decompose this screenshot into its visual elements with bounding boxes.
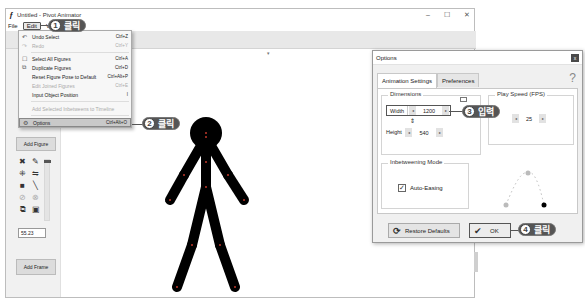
menu-item-input-position[interactable]: Input Object Position I [19, 90, 131, 99]
auto-easing-checkbox[interactable]: ✓ [398, 184, 406, 192]
line-icon[interactable]: ╲ [31, 181, 40, 190]
menu-separator [31, 101, 129, 102]
height-decrement[interactable]: ◂ [405, 128, 412, 137]
easing-preview-graphic [498, 169, 568, 213]
stick-figure[interactable] [150, 115, 270, 304]
callout-4: 4 클릭 [518, 223, 556, 236]
scale-input[interactable]: 55.23 [18, 228, 46, 238]
menu-item-redo[interactable]: ↷ Redo Ctrl+Y [19, 41, 131, 50]
close-button[interactable]: ✕ [464, 11, 470, 19]
color-icon[interactable]: ■ [18, 181, 27, 190]
callout-1: 1 클릭 [48, 19, 86, 32]
center-icon[interactable]: ⁜ [18, 169, 27, 178]
callout-2: 2 클릭 [142, 117, 180, 130]
callout-leader [449, 111, 463, 112]
paste-icon[interactable]: ▣ [31, 205, 40, 214]
ok-button[interactable]: ✔ OK [469, 223, 511, 238]
minimize-button[interactable]: – [426, 11, 430, 19]
menu-item-select-all[interactable]: ☐ Select All Figures Ctrl+A [19, 54, 131, 63]
tool-grid: ✖ ✎ ⁜ ⇋ ■ ╲ ⊘ ⊗ ⧉ ▣ [18, 157, 41, 214]
height-value[interactable]: 540 [413, 130, 435, 136]
join-icon[interactable]: ⊘ [18, 193, 27, 202]
select-all-icon: ☐ [19, 55, 29, 62]
add-figure-button[interactable]: Add Figure [16, 137, 56, 151]
width-spinbox[interactable]: Width ◂ 1200 ▸ [386, 105, 451, 116]
refresh-icon: ⟳ [393, 226, 401, 236]
redo-icon: ↷ [19, 42, 29, 49]
checkmark-icon: ✔ [474, 226, 482, 236]
menu-item-reset-pose[interactable]: Reset Figure Pose to Default Ctrl+Alt+P [19, 72, 131, 81]
flip-icon[interactable]: ⇋ [31, 169, 40, 178]
canvas-center-marker: ▾ [267, 50, 270, 56]
auto-easing-label: Auto-Easing [410, 185, 443, 191]
restore-defaults-button[interactable]: ⟳ Restore Defaults [388, 223, 460, 238]
scrollbar[interactable] [474, 252, 478, 272]
dialog-close-button[interactable]: x [571, 54, 579, 62]
play-speed-group: Play Speed (FPS) ◂ 25 ▸ [488, 95, 574, 145]
add-frame-button[interactable]: Add Frame [16, 259, 56, 275]
fps-increment[interactable]: ▸ [539, 114, 546, 123]
maximize-button[interactable]: ☐ [444, 11, 450, 19]
menu-item-options[interactable]: ⚙ Options Ctrl+Alt+O [19, 118, 131, 127]
tab-animation-settings[interactable]: Animation Settings [377, 73, 437, 88]
menu-separator [31, 115, 129, 116]
copy-icon[interactable]: ⧉ [18, 205, 27, 214]
inbetweening-group: Inbetweening Mode ✓ Auto-Easing [381, 163, 469, 209]
pencil-icon[interactable]: ✎ [31, 157, 40, 166]
dialog-title: Options [376, 55, 397, 61]
menu-item-add-inbetweens[interactable]: Add Selected Inbetweens to Timeline [19, 104, 131, 113]
options-dialog: Options x Animation Settings Preferences… [372, 50, 583, 243]
slider-thumb[interactable] [44, 160, 51, 163]
lock-ratio-icon[interactable] [460, 97, 467, 102]
aspect-link-icon[interactable]: ⇕ [410, 117, 415, 124]
height-spinbox[interactable]: ◂ 540 ▸ [404, 127, 444, 138]
width-increment[interactable]: ▸ [442, 106, 449, 115]
dialog-title-bar: Options [373, 51, 582, 65]
width-decrement[interactable]: ◂ [409, 106, 416, 115]
dialog-tabs: Animation Settings Preferences [377, 73, 479, 88]
app-icon: ƒ [9, 11, 14, 19]
menu-edit[interactable]: Edit [23, 22, 41, 30]
dimensions-group: Dimensions Width ◂ 1200 ▸ ⇕ Height ◂ 540… [381, 95, 481, 155]
duplicate-icon: ⧉ [19, 64, 29, 71]
tab-preferences[interactable]: Preferences [437, 73, 479, 87]
scale-slider[interactable] [44, 159, 50, 221]
delete-icon[interactable]: ✖ [18, 157, 27, 166]
menu-item-edit-joined[interactable]: Edit Joined Figures Ctrl+E [19, 81, 131, 90]
fps-value[interactable]: 25 [520, 116, 538, 122]
menu-separator [31, 52, 129, 53]
menu-item-duplicate[interactable]: ⧉ Duplicate Figures Ctrl+D [19, 63, 131, 72]
undo-icon: ↶ [19, 33, 29, 40]
split-icon[interactable]: ⊗ [31, 193, 40, 202]
menu-file[interactable]: File [8, 23, 18, 29]
window-title: Untitled - Pivot Animator [17, 12, 81, 18]
fps-decrement[interactable]: ◂ [512, 114, 519, 123]
height-label: Height [386, 129, 402, 135]
options-icon: ⚙ [20, 119, 30, 126]
help-icon[interactable]: ? [569, 71, 576, 85]
menu-item-undo-select[interactable]: ↶ Undo Select Ctrl+Z [19, 32, 131, 41]
height-increment[interactable]: ▸ [436, 128, 443, 137]
edit-menu-dropdown: ↶ Undo Select Ctrl+Z ↷ Redo Ctrl+Y ☐ Sel… [18, 30, 132, 128]
callout-3: 3 입력 [462, 105, 500, 118]
width-value[interactable]: 1200 [417, 108, 441, 114]
fps-spinbox[interactable]: ◂ 25 ▸ [511, 113, 547, 124]
